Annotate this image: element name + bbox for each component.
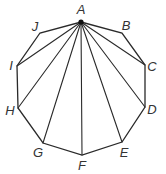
diagonal-a-e xyxy=(81,22,122,142)
vertex-label-a: A xyxy=(76,2,86,17)
diagonal-a-h xyxy=(18,22,81,108)
diagonal-a-c xyxy=(81,22,145,65)
vertex-label-j: J xyxy=(31,19,39,34)
decagon-diagram: ABCDEFGHIJ xyxy=(0,0,166,174)
vertex-label-g: G xyxy=(33,145,43,160)
vertex-label-h: H xyxy=(5,103,15,118)
diagonal-a-g xyxy=(43,22,81,143)
vertex-label-i: I xyxy=(9,58,13,73)
vertex-label-b: B xyxy=(122,18,131,33)
vertex-label-d: D xyxy=(147,102,156,117)
vertex-label-f: F xyxy=(78,158,87,173)
hub-vertex-a xyxy=(78,19,83,24)
diagonal-a-i xyxy=(17,22,81,66)
diagonal-a-d xyxy=(81,22,145,107)
vertex-label-c: C xyxy=(147,59,157,74)
vertex-label-e: E xyxy=(120,145,129,160)
diagonal-a-f xyxy=(81,22,82,155)
